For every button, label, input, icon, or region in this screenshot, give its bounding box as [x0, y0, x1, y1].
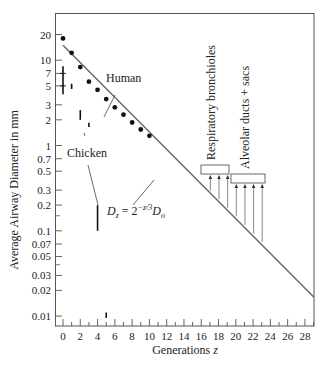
x-tick-label: 10 — [144, 330, 156, 342]
y-tick-label: 0.03 — [32, 269, 52, 281]
x-tick-label: 16 — [196, 330, 208, 342]
human-data-point — [61, 36, 66, 41]
y-tick-label: 0.01 — [32, 310, 51, 322]
x-tick-label: 12 — [161, 330, 172, 342]
x-axis-title: Generations z — [152, 343, 218, 357]
annotations: Human Chicken Dz = 2−z/3Do Respiratory b… — [67, 45, 265, 242]
human-data-point — [95, 87, 100, 92]
human-data-point — [121, 112, 126, 117]
chicken-leader-line — [84, 133, 85, 136]
x-tick-label: 28 — [299, 330, 311, 342]
human-data-point — [69, 50, 74, 55]
plot-frame — [56, 14, 315, 327]
arrowhead-icon — [260, 184, 264, 188]
y-tick-label: 0.02 — [32, 284, 51, 296]
y-tick-label: 0.1 — [37, 225, 51, 237]
y-tick-label: 0.2 — [37, 199, 51, 211]
human-data-point — [87, 79, 92, 84]
x-tick-label: 14 — [178, 330, 190, 342]
arrowhead-icon — [217, 175, 221, 179]
arrowhead-icon — [209, 175, 213, 179]
arrowhead-icon — [243, 184, 247, 188]
human-data-point — [112, 105, 117, 110]
arrowhead-icon — [226, 175, 230, 179]
y-tick-label: 7 — [46, 67, 52, 79]
human-data-point — [130, 120, 135, 125]
x-tick-label: 22 — [248, 330, 259, 342]
human-data-point — [138, 127, 143, 132]
x-tick-label: 20 — [230, 330, 242, 342]
x-tick-label: 18 — [213, 330, 225, 342]
y-tick-label: 1 — [46, 140, 52, 152]
x-tick-label: 6 — [112, 330, 118, 342]
y-tick-label: 0.07 — [32, 238, 52, 250]
x-tick-label: 26 — [282, 330, 294, 342]
y-tick-label: 10 — [40, 54, 52, 66]
chicken-label: Chicken — [67, 146, 107, 160]
arrowhead-icon — [235, 184, 239, 188]
x-axis-ticks: 0246810121416182022242628 — [60, 319, 313, 342]
human-data-point — [78, 65, 83, 70]
y-tick-label: 3 — [46, 99, 52, 111]
y-axis-title: Average Airway Diameter in mm — [7, 109, 21, 269]
formula-label: Dz = 2−z/3Do — [106, 203, 165, 220]
respiratory-bronchioles-box — [201, 165, 229, 174]
human-data-point — [147, 133, 152, 138]
y-tick-label: 20 — [40, 29, 52, 41]
model-line — [63, 45, 314, 297]
alveolar-ducts-box — [231, 174, 265, 183]
chicken-leader-line-2 — [88, 165, 98, 205]
y-tick-label: 0.3 — [37, 184, 51, 196]
x-tick-label: 4 — [95, 330, 101, 342]
x-tick-label: 0 — [60, 330, 66, 342]
arrowhead-icon — [252, 184, 256, 188]
y-tick-label: 0.7 — [37, 153, 51, 165]
alveolar-ducts-label: Alveolar ducts + sacs — [238, 66, 252, 169]
y-tick-label: 2 — [46, 114, 52, 126]
x-tick-label: 2 — [78, 330, 84, 342]
airway-diameter-chart: 2010753210.70.50.30.20.10.070.050.030.02… — [0, 0, 324, 373]
human-data-point — [104, 97, 109, 102]
respiratory-bronchioles-label: Respiratory bronchioles — [204, 45, 218, 160]
y-tick-label: 5 — [46, 80, 52, 92]
x-tick-label: 24 — [265, 330, 277, 342]
y-axis-ticks: 2010753210.70.50.30.20.10.070.050.030.02… — [32, 29, 62, 323]
region-arrows — [209, 175, 264, 242]
y-tick-label: 0.05 — [32, 250, 52, 262]
x-tick-label: 8 — [129, 330, 135, 342]
formula-leader-line — [133, 180, 154, 205]
y-tick-label: 0.5 — [37, 165, 51, 177]
human-label: Human — [106, 71, 141, 85]
data-series — [60, 36, 314, 318]
